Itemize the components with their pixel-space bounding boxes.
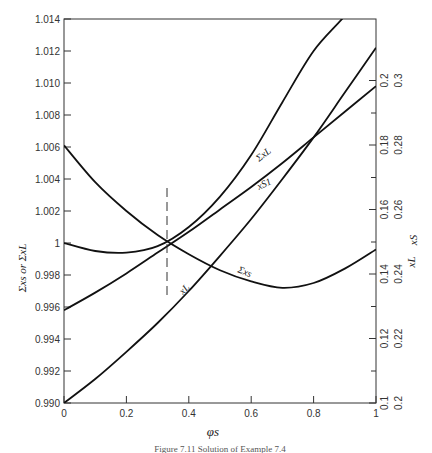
figure-caption: Figure 7.11 Solution of Example 7.4: [154, 444, 286, 453]
label-xs1: xS1: [254, 176, 273, 193]
plot-frame: [64, 19, 376, 403]
right-y-axis: 0.10.20.120.220.140.240.160.260.180.280.…: [369, 73, 404, 410]
x-axis-title: φs: [207, 424, 219, 439]
x-tick-label: 0.4: [182, 408, 196, 419]
y-axis-title-right-xs: xS: [407, 234, 419, 246]
y-tick-label: 1.010: [35, 78, 60, 89]
xl-tick-label: 0.2: [393, 396, 404, 410]
x-tick-label: 0.8: [307, 408, 321, 419]
y-tick-label: 1.014: [35, 14, 60, 25]
y-tick-label: 0.998: [35, 270, 60, 281]
xs-tick-label: 0.12: [379, 328, 390, 348]
y-tick-label: 1.006: [35, 142, 60, 153]
xs-tick-label: 0.16: [379, 199, 390, 219]
xs-tick-label: 0.2: [379, 73, 390, 87]
y-tick-label: 0.992: [35, 366, 60, 377]
x-tick-label: 0: [61, 408, 67, 419]
y-tick-label: 1.002: [35, 206, 60, 217]
y-tick-label: 0.996: [35, 302, 60, 313]
xs-tick-label: 0.14: [379, 264, 390, 284]
y-tick-label: 1.012: [35, 46, 60, 57]
curve-Σxs: [64, 145, 376, 287]
x-axis: 00.20.40.60.81: [61, 396, 379, 419]
xl-tick-label: 0.28: [393, 135, 404, 155]
x-tick-label: 0.2: [119, 408, 133, 419]
label-xl: xL: [176, 281, 192, 297]
y-tick-label: 0.990: [35, 398, 60, 409]
xl-tick-label: 0.26: [393, 199, 404, 219]
xs-tick-label: 0.1: [379, 396, 390, 410]
x-tick-label: 1: [373, 408, 379, 419]
curve-ΣxL: [64, 0, 376, 253]
xl-tick-label: 0.22: [393, 328, 404, 348]
curve-xL: [64, 48, 376, 403]
x-tick-label: 0.6: [244, 408, 258, 419]
y-axis-title-right-xl: xL: [405, 257, 417, 269]
chart-canvas: 0.9900.9920.9940.9960.99811.0021.0041.00…: [0, 0, 432, 453]
xl-tick-label: 0.3: [393, 73, 404, 87]
y-tick-label: 0.994: [35, 334, 60, 345]
left-y-axis: 0.9900.9920.9940.9960.99811.0021.0041.00…: [35, 14, 71, 409]
xs-tick-label: 0.18: [379, 135, 390, 155]
y-tick-label: 1.004: [35, 174, 60, 185]
y-tick-label: 1.008: [35, 110, 60, 121]
xl-tick-label: 0.24: [393, 264, 404, 284]
curves: [64, 0, 376, 403]
y-axis-title-left: Σxs or ΣxL: [16, 244, 28, 294]
y-tick-label: 1: [54, 238, 60, 249]
